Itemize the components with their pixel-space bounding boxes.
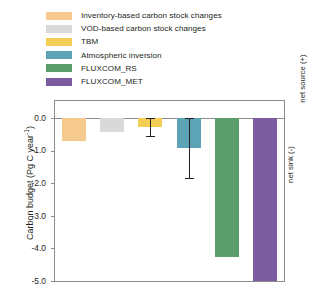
y-tick-label-0: 0.0: [34, 114, 46, 122]
chart-legend: Inventory-based carbon stock changes VOD…: [46, 9, 261, 88]
legend-item-label: Inventory-based carbon stock changes: [81, 11, 222, 20]
y-axis-title-exponent: -1: [23, 129, 30, 135]
error-cap-2-upper: [146, 118, 155, 119]
net-sink-annotation: net sink (-): [286, 111, 295, 219]
legend-swatch-icon: [46, 25, 72, 33]
error-bar-2: [150, 118, 151, 136]
legend-item: Atmospheric inversion: [46, 49, 261, 62]
legend-item-label: Atmospheric inversion: [81, 51, 162, 60]
error-bar-3: [189, 118, 190, 178]
plot-inner: [55, 101, 284, 281]
legend-item: TBM: [46, 35, 261, 48]
carbon-budget-bar-chart: Inventory-based carbon stock changes VOD…: [0, 0, 315, 296]
y-tick-label-5: -5.0: [32, 277, 46, 285]
legend-item-label: TBM: [81, 37, 98, 46]
legend-item: FLUXCOM_MET: [46, 75, 261, 88]
bar-1: [100, 118, 124, 132]
legend-item-label: VOD-based carbon stock changes: [81, 24, 206, 33]
legend-item-label: FLUXCOM_RS: [81, 64, 137, 73]
legend-swatch-icon: [46, 12, 72, 20]
legend-swatch-icon: [46, 38, 72, 46]
net-source-annotation: net source (+): [298, 25, 307, 133]
bar-4: [215, 118, 239, 257]
plot-area: [54, 100, 285, 282]
legend-item: FLUXCOM_RS: [46, 62, 261, 75]
legend-swatch-icon: [46, 64, 72, 72]
error-cap-2-lower: [146, 136, 155, 137]
legend-swatch-icon: [46, 51, 72, 59]
legend-item: VOD-based carbon stock changes: [46, 22, 261, 35]
error-cap-3-lower: [185, 178, 194, 179]
zero-baseline: [55, 118, 284, 119]
y-axis-title-main: Carbon budget (Pg C year: [25, 135, 35, 240]
legend-item-label: FLUXCOM_MET: [81, 77, 143, 86]
y-axis-title: Carbon budget (Pg C year-1): [23, 93, 35, 273]
bar-0: [62, 118, 86, 141]
bar-5: [253, 118, 277, 281]
legend-item: Inventory-based carbon stock changes: [46, 9, 261, 22]
legend-swatch-icon: [46, 78, 72, 86]
error-cap-3-upper: [185, 118, 194, 119]
y-axis-title-tail: ): [25, 126, 35, 129]
